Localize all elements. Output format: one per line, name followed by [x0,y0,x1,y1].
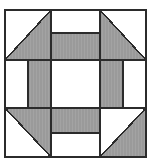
center-square-white [51,60,100,108]
edge-bar-top [51,33,100,60]
white-pieces-group [51,60,100,108]
edge-bar-bottom [51,108,100,133]
quilt-block-canvas [0,0,152,166]
edge-bar-left [28,60,51,108]
quilt-block-diagram [0,0,152,166]
edge-bar-right [100,60,123,108]
